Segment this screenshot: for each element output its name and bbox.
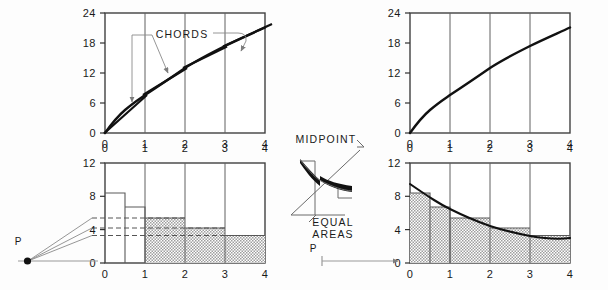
inset-areas-label: AREAS bbox=[312, 228, 354, 240]
ytick-label-12-top-left: 12 bbox=[83, 67, 96, 79]
xtick-label-0-bottom-left: 0 bbox=[102, 268, 109, 280]
xtick-label-2-bottom-right: 2 bbox=[487, 268, 494, 280]
panel-top-left: 24 18 12 6 0 0 1 2 3 4 CHORDS bbox=[83, 7, 272, 150]
chords-annotation-label: CHORDS bbox=[156, 28, 209, 40]
top-xtick-label-0-bottom-right: 0 bbox=[407, 142, 414, 154]
ytick-label-8-bottom-left: 8 bbox=[89, 190, 96, 202]
ytick-label-4-bottom-right: 4 bbox=[394, 224, 401, 236]
top-xtick-label-1-bottom-right: 1 bbox=[447, 142, 454, 154]
top-xtick-label-4-bottom-right: 4 bbox=[567, 142, 574, 154]
panel-top-right: 24 18 12 6 0 0 1 2 3 4 bbox=[388, 7, 574, 150]
top-xtick-label-4-bottom-left: 4 bbox=[262, 142, 269, 154]
ytick-label-6-top-left: 6 bbox=[89, 97, 96, 109]
ytick-label-12-top-right: 12 bbox=[388, 67, 401, 79]
top-xtick-label-1-bottom-left: 1 bbox=[142, 142, 149, 154]
top-xtick-label-2-bottom-right: 2 bbox=[487, 142, 494, 154]
top-xtick-label-0-bottom-left: 0 bbox=[102, 142, 109, 154]
ytick-label-12-bottom-right: 12 bbox=[388, 157, 401, 169]
xtick-label-3-bottom-right: 3 bbox=[527, 268, 534, 280]
xtick-label-0-bottom-right: 0 bbox=[407, 268, 414, 280]
pole-point-bottom-left bbox=[24, 257, 31, 264]
bar-shade-1-2-bottom-left bbox=[145, 218, 185, 263]
bar-shade-2-3-bottom-left bbox=[185, 228, 225, 263]
top-xtick-label-3-bottom-left: 3 bbox=[222, 142, 229, 154]
ytick-label-18-top-right: 18 bbox=[388, 37, 401, 49]
ytick-label-0-bottom-right: 0 bbox=[394, 257, 401, 269]
ytick-label-12-bottom-left: 12 bbox=[83, 157, 96, 169]
ytick-label-24-top-left: 24 bbox=[83, 7, 96, 19]
xtick-label-3-bottom-left: 3 bbox=[222, 268, 229, 280]
ytick-label-24-top-right: 24 bbox=[388, 7, 401, 19]
xtick-label-2-bottom-left: 2 bbox=[182, 268, 189, 280]
ytick-label-0-bottom-left: 0 bbox=[89, 257, 96, 269]
xtick-label-1-bottom-left: 1 bbox=[142, 268, 149, 280]
ytick-label-18-top-left: 18 bbox=[83, 37, 96, 49]
inset-midpoint-label: MIDPOINT bbox=[296, 133, 357, 145]
xtick-label-1-bottom-right: 1 bbox=[447, 268, 454, 280]
xtick-label-4-bottom-right: 4 bbox=[567, 268, 574, 280]
ytick-label-6-top-right: 6 bbox=[394, 97, 401, 109]
xtick-label-4-bottom-left: 4 bbox=[262, 268, 269, 280]
pole-label-bottom-left: P bbox=[15, 236, 22, 247]
top-xtick-label-2-bottom-left: 2 bbox=[182, 142, 189, 154]
ytick-label-8-bottom-right: 8 bbox=[394, 190, 401, 202]
ytick-label-0-top-left: 0 bbox=[89, 127, 96, 139]
ytick-label-0-top-right: 0 bbox=[394, 127, 401, 139]
bar-shade-3-4-bottom-left bbox=[225, 236, 265, 264]
four-panel-calculus-figure: 24 18 12 6 0 0 1 2 3 4 CHORDS bbox=[0, 0, 608, 290]
inset-equal-label: EQUAL bbox=[312, 216, 354, 228]
figure-canvas: 24 18 12 6 0 0 1 2 3 4 CHORDS bbox=[0, 0, 608, 290]
ytick-label-4-bottom-left: 4 bbox=[89, 224, 96, 236]
pole-label-bottom-right: P bbox=[310, 243, 317, 254]
top-xtick-label-3-bottom-right: 3 bbox=[527, 142, 534, 154]
